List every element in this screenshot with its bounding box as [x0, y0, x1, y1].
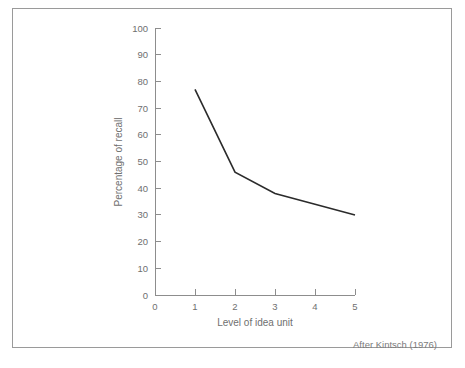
y-tick-label: 90 [137, 49, 148, 60]
x-tick-label: 4 [312, 301, 317, 312]
y-axis-title: Percentage of recall [113, 118, 124, 207]
y-tick-label: 60 [137, 129, 148, 140]
x-tick-label: 3 [272, 301, 277, 312]
chart-plot-area: 0102030405060708090100012345 Level of id… [0, 0, 465, 368]
y-tick-label: 100 [132, 23, 148, 34]
y-tick-label: 0 [143, 290, 148, 301]
tick-labels-group: 0102030405060708090100012345 [132, 23, 358, 313]
x-tick-label: 1 [192, 301, 197, 312]
y-tick-label: 40 [137, 183, 148, 194]
y-tick-label: 10 [137, 263, 148, 274]
y-tick-label: 70 [137, 103, 148, 114]
x-tick-label: 5 [352, 301, 357, 312]
y-tick-label: 30 [137, 209, 148, 220]
y-tick-label: 50 [137, 156, 148, 167]
figure-credit: After Kintsch (1976) [353, 339, 437, 350]
ticks-group [155, 28, 355, 295]
data-series-line [195, 89, 355, 214]
figure-container: 0102030405060708090100012345 Level of id… [0, 0, 465, 368]
x-tick-label: 2 [232, 301, 237, 312]
y-tick-label: 80 [137, 76, 148, 87]
x-tick-label: 0 [152, 301, 157, 312]
y-tick-label: 20 [137, 236, 148, 247]
axes-group [155, 28, 355, 295]
x-axis-title: Level of idea unit [217, 317, 293, 328]
